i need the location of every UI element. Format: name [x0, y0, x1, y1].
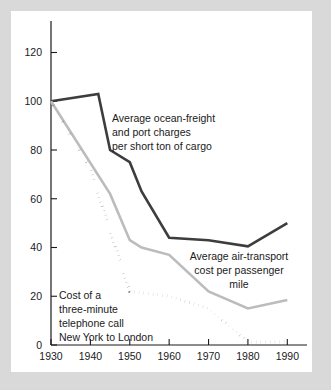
air-transport-label-line-1: cost per passenger: [194, 264, 284, 276]
figure-root: 020406080100120 193019401950196019701980…: [0, 0, 331, 390]
y-tick-label: 0: [36, 339, 42, 351]
annotation-ocean-freight: Average ocean-freightand port chargesper…: [112, 112, 215, 152]
ocean-freight-label-line-0: Average ocean-freight: [112, 112, 215, 124]
x-tick-label: 1990: [276, 350, 300, 362]
telephone-label-line-0: Cost of a: [59, 289, 101, 301]
x-axis-tick-labels: 1930194019501960197019801990: [39, 350, 299, 362]
x-tick-label: 1940: [79, 350, 103, 362]
annotation-air-transport: Average air-transportcost per passengerm…: [190, 250, 289, 290]
y-tick-label: 100: [24, 95, 42, 107]
line-chart: 020406080100120 193019401950196019701980…: [11, 11, 312, 372]
chart-panel: 020406080100120 193019401950196019701980…: [11, 11, 312, 372]
y-tick-label: 120: [24, 46, 42, 58]
y-tick-label: 80: [30, 144, 42, 156]
x-tick-label: 1970: [197, 350, 221, 362]
x-tick-label: 1930: [39, 350, 63, 362]
y-axis-tick-labels: 020406080100120: [24, 46, 42, 351]
y-tick-label: 40: [30, 241, 42, 253]
telephone-label-line-2: telephone call: [59, 317, 124, 329]
air-transport-label-line-0: Average air-transport: [190, 250, 289, 262]
x-tick-label: 1960: [157, 350, 181, 362]
telephone-label-line-1: three-minute: [59, 303, 118, 315]
annotation-telephone: Cost of athree-minutetelephone callNew Y…: [59, 289, 153, 343]
y-axis-tick-marks: [51, 53, 57, 346]
ocean-freight-label-line-2: per short ton of cargo: [112, 140, 212, 152]
y-tick-label: 60: [30, 193, 42, 205]
x-tick-label: 1950: [118, 350, 142, 362]
x-tick-label: 1980: [236, 350, 260, 362]
telephone-label-line-3: New York to London: [59, 331, 153, 343]
y-tick-label: 20: [30, 290, 42, 302]
ocean-freight-label-line-1: and port charges: [112, 126, 191, 138]
air-transport-label-line-2: mile: [229, 278, 248, 290]
